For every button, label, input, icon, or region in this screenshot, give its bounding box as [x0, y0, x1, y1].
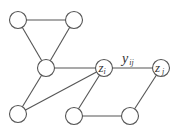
node-bottom-left	[10, 106, 27, 123]
edge-label-yij: yij	[120, 51, 134, 67]
node-top-right	[66, 12, 83, 29]
edge-n4-zi	[18, 68, 104, 114]
graph-diagram: zi zj yij	[0, 0, 185, 136]
node-center	[38, 60, 55, 77]
node-bottom-right	[122, 108, 139, 125]
node-bottom-middle	[66, 108, 83, 125]
node-top-left	[10, 12, 27, 29]
